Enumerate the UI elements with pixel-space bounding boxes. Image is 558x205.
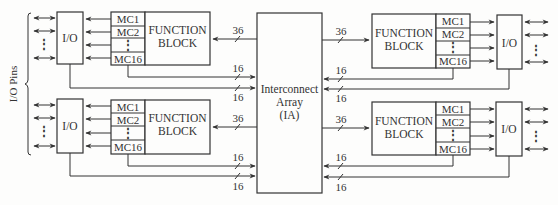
macrocell-ellipsis: ⋮ bbox=[447, 40, 459, 54]
macrocell-mc16: MC16 bbox=[439, 55, 468, 67]
function-block-label: FUNCTION bbox=[375, 115, 434, 127]
macrocell-mc1: MC1 bbox=[117, 13, 140, 25]
bus-width-label: 16 bbox=[336, 181, 348, 193]
io-label: I/O bbox=[501, 123, 516, 135]
io-pins-label-group: I/O Pins bbox=[7, 13, 31, 155]
function-block-label: BLOCK bbox=[385, 40, 425, 52]
macrocell-mc16: MC16 bbox=[114, 141, 143, 153]
function-block-label: FUNCTION bbox=[148, 112, 207, 124]
bus-width-label: 16 bbox=[233, 180, 245, 192]
macrocell-mc2: MC2 bbox=[442, 28, 465, 40]
bus-width-label: 36 bbox=[336, 113, 348, 125]
io-pins-label: I/O Pins bbox=[7, 66, 19, 102]
cpld-diagram: I/O Pins Interconnect Array (IA) ⋮ I/O M… bbox=[0, 0, 558, 205]
bus-width-label: 36 bbox=[233, 112, 245, 124]
macrocell-mc1: MC1 bbox=[442, 15, 465, 27]
macrocell-mc1: MC1 bbox=[442, 103, 465, 115]
pin-ellipsis: ⋮ bbox=[38, 37, 50, 51]
function-block-label: BLOCK bbox=[385, 128, 425, 140]
function-block-label: BLOCK bbox=[158, 37, 198, 49]
ia-label-line1: Interconnect bbox=[261, 83, 319, 95]
pin-ellipsis: ⋮ bbox=[530, 43, 542, 57]
macrocell-mc16: MC16 bbox=[114, 53, 143, 65]
ia-label-line3: (IA) bbox=[280, 109, 300, 122]
bus-width-label: 16 bbox=[233, 91, 245, 103]
bus-width-label: 16 bbox=[336, 151, 348, 163]
bus-width-label: 16 bbox=[233, 151, 245, 163]
pin-ellipsis: ⋮ bbox=[530, 129, 542, 143]
bus-width-label: 16 bbox=[233, 62, 245, 74]
macrocell-mc1: MC1 bbox=[117, 101, 140, 113]
pins-brace bbox=[25, 13, 31, 155]
macrocell-ellipsis: ⋮ bbox=[447, 128, 459, 142]
function-block-label: FUNCTION bbox=[375, 27, 434, 39]
bus-width-label: 16 bbox=[336, 92, 348, 104]
block-bottom-right: 36 FUNCTION BLOCK MC1 MC2 ⋮ MC16 I/O ⋮ 1… bbox=[322, 102, 548, 193]
pin-ellipsis: ⋮ bbox=[38, 124, 50, 138]
bus-width-label: 16 bbox=[336, 64, 348, 76]
io-label: I/O bbox=[62, 32, 77, 44]
function-block-label: FUNCTION bbox=[148, 24, 207, 36]
ia-label-line2: Array bbox=[276, 96, 303, 109]
bus-width-label: 36 bbox=[336, 25, 348, 37]
io-label: I/O bbox=[62, 120, 77, 132]
io-label: I/O bbox=[502, 37, 517, 49]
bus-16-io bbox=[70, 153, 255, 176]
bus-width-label: 36 bbox=[233, 24, 245, 36]
interconnect-array: Interconnect Array (IA) bbox=[257, 13, 322, 193]
macrocell-mc2: MC2 bbox=[442, 116, 465, 128]
function-block-label: BLOCK bbox=[158, 125, 198, 137]
macrocell-mc2: MC2 bbox=[117, 26, 140, 38]
block-top-left: ⋮ I/O MC1 MC2 ⋮ MC16 FUNCTION BLOCK 36 1… bbox=[34, 12, 257, 91]
macrocell-mc2: MC2 bbox=[117, 114, 140, 126]
macrocell-mc16: MC16 bbox=[439, 143, 468, 155]
macrocell-ellipsis: ⋮ bbox=[122, 38, 134, 52]
block-top-right: 36 FUNCTION BLOCK MC1 MC2 ⋮ MC16 I/O ⋮ 1… bbox=[322, 14, 548, 104]
macrocell-ellipsis: ⋮ bbox=[122, 126, 134, 140]
bus-16-io bbox=[70, 64, 255, 88]
block-bottom-left: ⋮ I/O MC1 MC2 ⋮ MC16 FUNCTION BLOCK 36 1… bbox=[34, 99, 257, 192]
